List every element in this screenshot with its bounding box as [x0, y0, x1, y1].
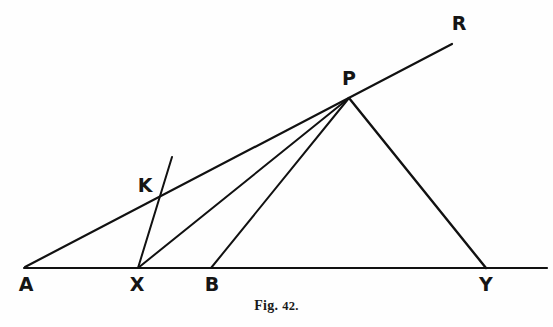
point-label-p: P [342, 69, 356, 88]
line-P-to-Y [349, 98, 486, 268]
figure-caption: Fig. 42. [0, 298, 553, 314]
figure-caption-number: 42. [282, 299, 299, 313]
point-label-k: K [138, 176, 153, 195]
line-X-to-P [138, 98, 349, 268]
point-label-r: R [452, 14, 467, 33]
line-segments-group [24, 44, 547, 268]
line-B-to-P [211, 98, 349, 268]
point-label-b: B [205, 275, 219, 294]
point-label-a: A [19, 275, 34, 294]
figure-caption-prefix: Fig. [254, 298, 278, 313]
figure-container: A X B Y K P R Fig. 42. [0, 0, 553, 327]
point-label-y: Y [479, 275, 493, 294]
point-label-x: X [130, 275, 145, 294]
geometry-diagram [0, 0, 553, 327]
